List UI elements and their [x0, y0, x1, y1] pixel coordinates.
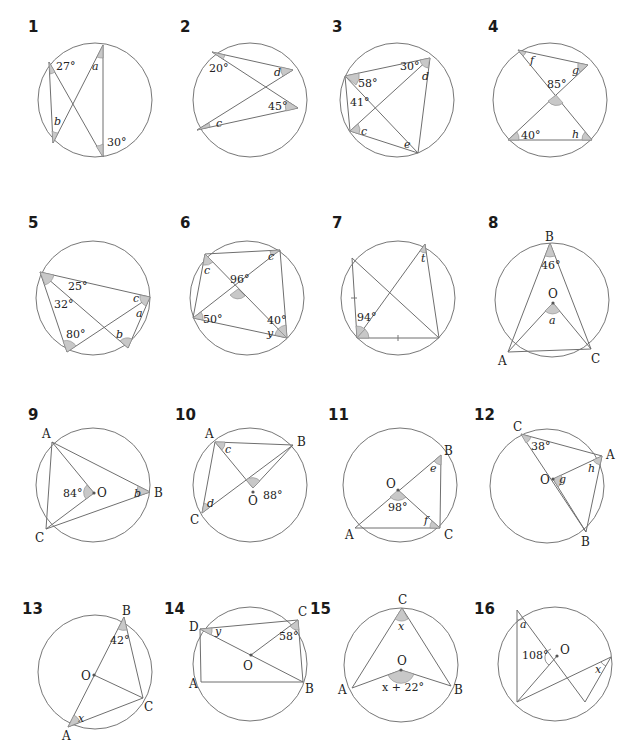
problem-number-8: 8	[488, 214, 498, 232]
point-label: A	[41, 427, 51, 441]
problem-number-6: 6	[180, 214, 190, 232]
point-label: O	[540, 473, 550, 487]
diagram-5: 25° 32° 80° c a b	[30, 238, 160, 368]
angle-marker	[63, 340, 76, 352]
diagram-16: O 108° a x	[493, 598, 633, 738]
angle-marker	[49, 62, 55, 74]
point-label: B	[444, 444, 453, 458]
circle	[36, 428, 150, 542]
center-point	[551, 477, 554, 480]
diagram-6: 96° 50° 40° c c y	[185, 238, 315, 368]
angle-label: 30°	[107, 136, 127, 149]
variable-label: d	[207, 497, 214, 510]
diagram-4: 85° 40° f g h	[490, 40, 620, 170]
variable-label: y	[266, 327, 274, 340]
variable-label: f	[423, 514, 430, 527]
point-label: C	[513, 420, 522, 434]
angle-marker	[140, 295, 150, 306]
variable-label: b	[116, 328, 123, 341]
angle-label: 58°	[279, 630, 299, 643]
angle-marker	[230, 289, 245, 299]
variable-label: b	[54, 115, 61, 128]
angle-label: 25°	[68, 280, 88, 293]
angle-label: 84°	[63, 487, 83, 500]
angle-label: 46°	[541, 259, 561, 272]
angle-marker	[508, 132, 519, 140]
center-point	[249, 653, 252, 656]
diagram-12: C A O B 38° g h	[485, 420, 625, 560]
center-point	[399, 668, 402, 671]
point-label: C	[144, 700, 153, 714]
angle-label: 20°	[209, 62, 229, 75]
angle-marker	[290, 620, 299, 630]
point-label: O	[243, 659, 253, 673]
problem-number-3: 3	[332, 18, 342, 36]
point-label: C	[398, 593, 407, 607]
point-label: A	[497, 354, 507, 368]
point-label: B	[297, 435, 306, 449]
problem-number-4: 4	[488, 18, 498, 36]
variable-label: c	[225, 443, 231, 456]
angle-label: 94°	[357, 311, 377, 324]
point-label: D	[189, 620, 199, 634]
point-label: C	[190, 513, 199, 527]
angle-marker	[545, 303, 560, 314]
center-point	[396, 488, 399, 491]
diagram-1: 27° 30° a b	[30, 40, 160, 170]
problem-number-7: 7	[332, 214, 342, 232]
variable-label: x	[595, 663, 602, 676]
point-label: B	[122, 604, 131, 618]
angle-label: 32°	[54, 298, 74, 311]
point-label: A	[188, 677, 198, 691]
variable-label: a	[520, 618, 527, 631]
angle-marker	[430, 521, 440, 528]
problem-number-1: 1	[28, 18, 38, 36]
angle-label: x + 22°	[382, 681, 424, 694]
point-label: O	[397, 654, 407, 668]
point-label: C	[444, 528, 453, 542]
angle-label: 96°	[230, 273, 250, 286]
angle-marker	[420, 58, 430, 68]
angle-marker	[84, 485, 94, 499]
angle-label: 30°	[400, 60, 420, 73]
variable-label: e	[430, 462, 437, 475]
angle-label: 80°	[66, 328, 86, 341]
variable-label: a	[549, 314, 556, 327]
point-label: B	[581, 535, 590, 549]
angle-label: 45°	[268, 100, 288, 113]
angle-label: 58°	[358, 77, 378, 90]
center-point	[555, 654, 558, 657]
circle	[38, 615, 152, 729]
point-label: B	[305, 682, 314, 696]
variable-label: f	[529, 54, 536, 67]
diagram-13: B O A C 42° x	[30, 612, 170, 752]
diagram-15: C O A B x + 22° x	[335, 598, 475, 738]
variable-label: g	[559, 473, 566, 486]
problem-number-5: 5	[28, 214, 38, 232]
angle-label: 42°	[110, 634, 130, 647]
point-label: A	[204, 427, 214, 441]
variable-label: y	[214, 625, 222, 638]
diagram-8: B O A C 46° a	[490, 232, 620, 372]
angle-label: 85°	[547, 78, 567, 91]
center-point	[92, 673, 95, 676]
problem-number-11: 11	[328, 406, 349, 424]
diagram-7: 94° t	[335, 238, 465, 368]
variable-label: h	[588, 462, 595, 475]
angle-marker	[518, 50, 526, 56]
variable-label: b	[134, 487, 141, 500]
variable-label: a	[92, 60, 99, 73]
diagram-9: A O B C 84° b	[28, 425, 168, 555]
angle-marker	[548, 95, 563, 106]
point-label: A	[337, 683, 347, 697]
problem-number-10: 10	[175, 406, 196, 424]
point-label: C	[591, 352, 600, 366]
angle-marker	[96, 144, 103, 157]
variable-label: c	[361, 125, 367, 138]
problem-number-2: 2	[180, 18, 190, 36]
problem-number-16: 16	[474, 600, 495, 618]
variable-label: c	[216, 117, 222, 130]
point-label: O	[248, 494, 258, 508]
variable-label: c	[133, 292, 139, 305]
point-label: C	[298, 605, 307, 619]
